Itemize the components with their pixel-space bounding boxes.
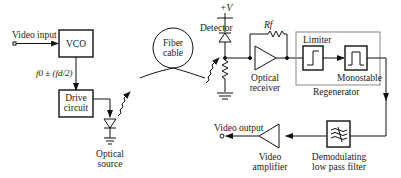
fiber-label-1: Fiber <box>153 38 193 48</box>
frequency-label: f0 ± (fd/2) <box>36 68 72 78</box>
photodiode-symbol <box>219 33 231 42</box>
drive-label-2: circuit <box>59 103 93 113</box>
detector-label: Detector <box>200 23 233 33</box>
drive-label-1: Drive <box>59 93 93 103</box>
video-input-terminal <box>13 42 16 45</box>
monostable-block <box>345 46 367 70</box>
monostable-label: Monostable <box>337 73 382 83</box>
optical-receiver-label-2: receiver <box>248 83 282 93</box>
regenerator-label: Regenerator <box>313 87 359 97</box>
lpf-label-1: Demodulating <box>310 152 368 162</box>
video-output-terminal <box>220 134 224 138</box>
video-output-label: Video output <box>214 123 263 133</box>
video-input-label: Video input <box>12 30 57 40</box>
optical-receiver-label-1: Optical <box>248 73 282 83</box>
vco-label: VCO <box>59 39 93 49</box>
supply-label: +V <box>220 3 232 13</box>
led-symbol <box>104 119 116 128</box>
fiber-label-2: cable <box>153 48 193 58</box>
rf-label: Rf <box>264 20 272 30</box>
limiter-label: Limiter <box>303 35 332 45</box>
video-amplifier-label-2: amplifier <box>252 162 288 172</box>
lpf-label-2: low pass filter <box>310 162 368 172</box>
optical-receiver-amp <box>255 46 276 70</box>
video-amplifier-label-1: Video <box>252 152 288 162</box>
optical-source-label-1: Optical <box>94 149 126 159</box>
optical-source-label-2: source <box>94 159 126 169</box>
